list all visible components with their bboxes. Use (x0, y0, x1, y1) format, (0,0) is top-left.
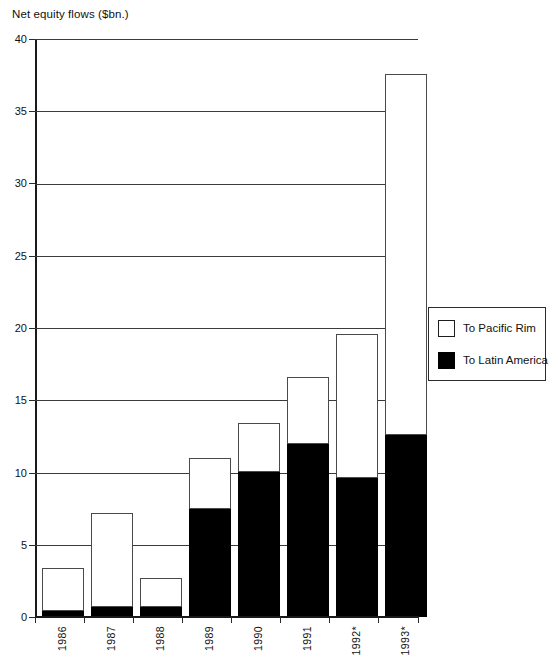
legend-item-pacific-rim[interactable]: To Pacific Rim (438, 317, 538, 339)
bar-group-1992[interactable] (336, 334, 378, 617)
white-square-icon (438, 320, 455, 337)
bar-segment-latin-america-1991[interactable] (287, 444, 329, 617)
x-tick-mark-3 (182, 617, 183, 623)
bar-segment-latin-america-1990[interactable] (238, 472, 280, 617)
y-tick-label-25: 25 (3, 251, 27, 262)
x-tick-label-1989: 1989 (204, 626, 215, 651)
bar-segment-pacific-rim-1986[interactable] (42, 568, 84, 611)
gridline-40 (35, 39, 418, 40)
gridline-20 (35, 328, 418, 329)
x-tick-label-1986: 1986 (57, 626, 68, 651)
y-tick-label-5: 5 (3, 540, 27, 551)
bar-segment-latin-america-1989[interactable] (189, 509, 231, 617)
y-tick-label-10: 10 (3, 468, 27, 479)
x-tick-mark-0 (35, 617, 36, 623)
bar-segment-pacific-rim-1991[interactable] (287, 377, 329, 444)
legend-item-latin-america[interactable]: To Latin America (438, 349, 538, 371)
x-tick-label-1991: 1991 (302, 626, 313, 651)
bar-segment-latin-america-1993[interactable] (385, 435, 427, 617)
bar-segment-pacific-rim-1993[interactable] (385, 74, 427, 435)
bar-group-1988[interactable] (140, 578, 182, 617)
x-tick-mark-2 (133, 617, 134, 623)
x-tick-label-1990: 1990 (253, 626, 264, 651)
x-tick-mark-1 (84, 617, 85, 623)
bar-segment-pacific-rim-1987[interactable] (91, 513, 133, 607)
y-tick-label-30: 30 (3, 178, 27, 189)
y-tick-label-40: 40 (3, 34, 27, 45)
x-tick-label-1992: 1992* (351, 626, 362, 655)
chart-legend: To Pacific Rim To Latin America (428, 307, 546, 381)
bar-group-1990[interactable] (238, 423, 280, 617)
black-square-icon (438, 352, 455, 369)
gridline-35 (35, 111, 418, 112)
y-axis-labels: 40 35 30 25 20 15 10 5 0 (0, 0, 27, 666)
bar-group-1986[interactable] (42, 568, 84, 617)
x-tick-label-1993: 1993* (400, 626, 411, 655)
bar-segment-pacific-rim-1992[interactable] (336, 334, 378, 478)
bar-segment-latin-america-1992[interactable] (336, 478, 378, 617)
y-tick-label-15: 15 (3, 395, 27, 406)
x-tick-mark-5 (280, 617, 281, 623)
bar-segment-pacific-rim-1990[interactable] (238, 423, 280, 472)
plot-area (35, 39, 418, 617)
x-tick-mark-4 (231, 617, 232, 623)
x-tick-mark-7 (378, 617, 379, 623)
y-tick-label-0: 0 (3, 612, 27, 623)
x-tick-label-1987: 1987 (106, 626, 117, 651)
gridline-25 (35, 256, 418, 257)
y-tick-label-35: 35 (3, 106, 27, 117)
x-tick-mark-6 (329, 617, 330, 623)
bar-segment-pacific-rim-1989[interactable] (189, 458, 231, 509)
chart-title: Net equity flows ($bn.) (12, 8, 129, 20)
gridline-30 (35, 184, 418, 185)
legend-label-pacific-rim: To Pacific Rim (463, 322, 536, 334)
bar-segment-pacific-rim-1988[interactable] (140, 578, 182, 607)
bar-group-1991[interactable] (287, 377, 329, 617)
y-tick-label-20: 20 (3, 323, 27, 334)
chart-figure: Net equity flows ($bn.) 40 35 30 25 20 1… (0, 0, 558, 666)
legend-label-latin-america: To Latin America (463, 354, 548, 366)
x-tick-mark-8 (418, 617, 419, 623)
bar-group-1993[interactable] (385, 74, 427, 617)
bar-group-1989[interactable] (189, 458, 231, 617)
bar-group-1987[interactable] (91, 513, 133, 617)
x-axis-line (35, 616, 419, 618)
x-tick-label-1988: 1988 (155, 626, 166, 651)
